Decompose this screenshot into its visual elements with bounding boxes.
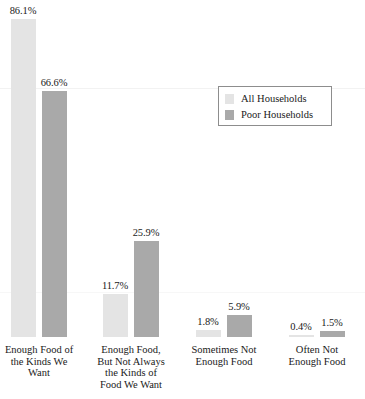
value-label-poor-3: 1.5% bbox=[309, 317, 355, 329]
bar-all-households-2 bbox=[196, 330, 221, 337]
category-label-2-line-1: Enough Food bbox=[186, 356, 262, 368]
category-label-0-line-0: Enough Food of bbox=[1, 344, 77, 356]
value-label-poor-0: 66.6% bbox=[31, 77, 77, 89]
bar-all-households-1 bbox=[103, 294, 128, 337]
category-label-2-line-0: Sometimes Not bbox=[186, 344, 262, 356]
category-label-0: Enough Food of the Kinds We Want bbox=[1, 344, 77, 379]
value-label-all-1: 11.7% bbox=[92, 280, 138, 292]
category-label-1-line-2: the Kinds of bbox=[93, 367, 169, 379]
category-label-0-line-2: Want bbox=[1, 367, 77, 379]
chart-legend: All Households Poor Households bbox=[218, 86, 332, 126]
bar-all-households-3 bbox=[289, 335, 314, 337]
category-label-1-line-3: Food We Want bbox=[93, 379, 169, 391]
category-label-0-line-1: the Kinds We bbox=[1, 356, 77, 368]
legend-swatch-poor-households-icon bbox=[225, 110, 234, 120]
legend-label-poor-households: Poor Households bbox=[241, 109, 313, 120]
value-label-all-2: 1.8% bbox=[185, 316, 231, 328]
category-label-1-line-1: But Not Always bbox=[93, 356, 169, 368]
bar-all-households-0 bbox=[11, 19, 36, 337]
bar-poor-households-0 bbox=[42, 91, 67, 337]
legend-item-all-households: All Households bbox=[225, 91, 307, 106]
value-label-poor-1: 25.9% bbox=[123, 227, 169, 239]
category-label-3-line-1: Enough Food bbox=[279, 356, 355, 368]
legend-label-all-households: All Households bbox=[241, 93, 307, 104]
bar-chart: 86.1% 66.6% 11.7% 25.9% 1.8% 5.9% 0.4% 1… bbox=[0, 0, 365, 399]
legend-swatch-all-households-icon bbox=[225, 94, 234, 104]
category-label-2: Sometimes Not Enough Food bbox=[186, 344, 262, 367]
category-label-1: Enough Food, But Not Always the Kinds of… bbox=[93, 344, 169, 390]
legend-item-poor-households: Poor Households bbox=[225, 107, 313, 122]
value-label-all-0: 86.1% bbox=[0, 5, 46, 17]
value-label-poor-2: 5.9% bbox=[216, 301, 262, 313]
category-label-3-line-0: Often Not bbox=[279, 344, 355, 356]
category-label-3: Often Not Enough Food bbox=[279, 344, 355, 367]
category-label-1-line-0: Enough Food, bbox=[93, 344, 169, 356]
